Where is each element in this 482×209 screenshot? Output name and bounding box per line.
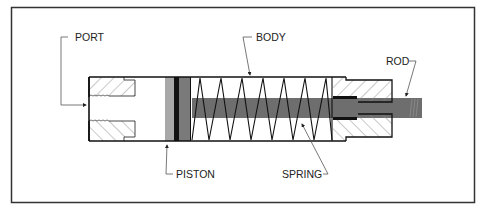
label-body: BODY bbox=[256, 31, 286, 43]
label-spring: SPRING bbox=[282, 168, 322, 180]
cylinder-diagram: PORT BODY ROD PISTON SPRING bbox=[0, 0, 482, 209]
label-body-group: BODY bbox=[243, 31, 286, 75]
label-spring-group: SPRING bbox=[282, 124, 328, 180]
label-port: PORT bbox=[75, 31, 105, 43]
label-piston-group: PISTON bbox=[166, 145, 215, 180]
piston bbox=[165, 77, 191, 141]
label-rod: ROD bbox=[386, 55, 410, 67]
port-end-cap bbox=[89, 77, 135, 141]
label-piston: PISTON bbox=[176, 168, 215, 180]
